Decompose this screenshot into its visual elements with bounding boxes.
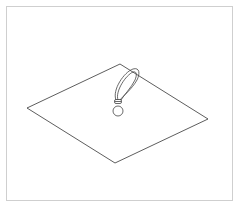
figure-drawing [0,0,240,206]
ball [113,106,123,116]
knot [115,100,122,104]
